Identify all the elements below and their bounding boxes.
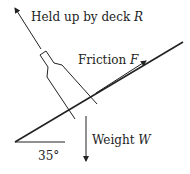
weight-label-text: Weight <box>92 133 135 147</box>
friction-label-text: Friction <box>78 53 126 67</box>
diagram-drawing <box>0 0 190 174</box>
weight-force-label: Weight W <box>92 134 151 146</box>
force-diagram: Held up by deck R Friction F Weight W 35… <box>0 0 190 174</box>
weight-label-symbol: W <box>138 133 150 147</box>
normal-label-symbol: R <box>134 10 143 24</box>
normal-force-label: Held up by deck R <box>31 11 143 23</box>
normal-label-text: Held up by deck <box>31 10 130 24</box>
friction-label-symbol: F <box>130 53 138 67</box>
angle-label: 35° <box>38 150 59 162</box>
friction-force-label: Friction F <box>78 54 138 66</box>
